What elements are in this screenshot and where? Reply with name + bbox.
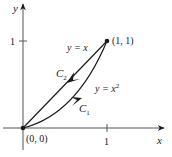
path-diagram: y x 1 1 (0, 0) (1, 1) y = x y = x2 C2 C1 bbox=[0, 0, 172, 157]
c2-label: C2 bbox=[56, 67, 67, 82]
origin-label: (0, 0) bbox=[26, 133, 48, 145]
x-tick-label: 1 bbox=[104, 136, 109, 147]
y-axis-label: y bbox=[12, 2, 18, 14]
y-tick-label: 1 bbox=[10, 36, 15, 47]
c2-direction-arrow-icon bbox=[67, 72, 80, 83]
end-point bbox=[105, 39, 110, 44]
x-axis-label: x bbox=[156, 134, 162, 146]
c1-label: C1 bbox=[79, 102, 90, 117]
line-equation-label: y = x bbox=[66, 42, 88, 53]
origin-point bbox=[21, 126, 26, 131]
end-point-label: (1, 1) bbox=[112, 35, 134, 47]
parabola-equation-label: y = x2 bbox=[94, 82, 120, 94]
